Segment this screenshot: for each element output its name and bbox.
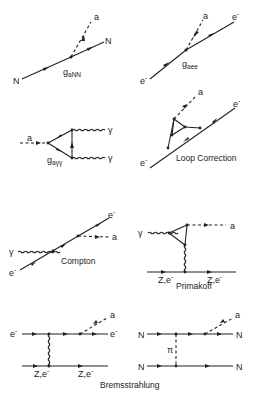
label-axion: a <box>198 87 203 97</box>
vertex <box>173 118 176 121</box>
arrow-icon <box>43 67 49 71</box>
arrow-icon <box>33 364 38 368</box>
label-nucleon-2-in: N <box>138 362 145 372</box>
arrow-icon <box>92 332 97 336</box>
photon-line-upper <box>72 129 105 131</box>
label-photon: γ <box>138 228 143 238</box>
vertex <box>77 235 80 238</box>
arrow-icon <box>188 332 193 336</box>
electron-in-line <box>150 50 186 79</box>
label-pion: π <box>167 345 173 355</box>
diagram-primakoff: γ a Z,e- Z,e- Primakoff <box>138 221 236 291</box>
vertex <box>204 333 207 336</box>
vertex <box>79 333 82 336</box>
label-axion: a <box>112 232 117 242</box>
label-target-in: Z,e- <box>158 273 173 285</box>
label-electron-out: e- <box>232 10 239 22</box>
label-electron-out: e- <box>233 97 240 109</box>
arrow-icon <box>87 47 93 51</box>
photon-line-exchange <box>48 334 50 367</box>
diagram-bremsstrahlung-nucleon: N N N N a π <box>138 310 243 372</box>
coupling-label: gaee <box>182 59 198 70</box>
vertex <box>71 129 74 132</box>
feynman-diagrams-figure: N N a gaNN e- e- a gaee a γ γ gaγγ <box>0 0 255 405</box>
vertex <box>70 56 73 59</box>
arrow-icon <box>93 320 98 324</box>
arrow-icon <box>182 102 188 108</box>
vertex <box>184 126 187 129</box>
label-electron-in: e- <box>140 156 147 168</box>
arrow-icon <box>95 223 101 227</box>
label-axion: a <box>230 221 235 231</box>
loop-line <box>169 225 187 233</box>
label-electron-out: e- <box>108 208 115 220</box>
caption-primakoff: Primakoff <box>176 281 212 291</box>
label-electron-in: e- <box>140 74 147 86</box>
label-electron-in: e- <box>10 327 17 339</box>
loop-line <box>174 119 185 127</box>
label-axion: a <box>203 11 208 21</box>
vertex <box>175 333 178 336</box>
arrow-icon <box>95 235 100 239</box>
arrow-icon <box>207 270 212 274</box>
vertex <box>199 127 202 130</box>
label-axion: a <box>27 133 32 143</box>
photon-line-exchange <box>184 245 186 272</box>
vertex <box>71 157 74 160</box>
coupling-label: gaNN <box>63 67 81 78</box>
arrow-icon <box>157 332 162 336</box>
label-photon-1: γ <box>108 125 113 135</box>
axion-line <box>205 318 233 334</box>
label-electron-out: e- <box>110 327 117 339</box>
vertex <box>47 142 50 145</box>
diagram-axion-photon: a γ γ gaγγ <box>20 125 113 167</box>
loop-line <box>185 127 200 128</box>
vertex <box>168 232 171 235</box>
vertex <box>167 147 170 150</box>
label-axion: a <box>235 310 240 320</box>
caption-loop-correction: Loop Correction <box>176 153 237 163</box>
axion-line <box>71 22 91 57</box>
label-photon-2: γ <box>108 153 113 163</box>
label-target-in: Z,e- <box>34 367 49 379</box>
photon-line-lower <box>72 157 105 159</box>
vertex <box>186 224 189 227</box>
arrow-icon <box>78 364 83 368</box>
diagram-loop-correction: e- e- a Loop Correction <box>140 87 240 168</box>
vertex <box>184 271 187 274</box>
loop-line <box>169 233 185 245</box>
axion-line <box>80 318 107 334</box>
label-axion: a <box>94 12 99 22</box>
vertex <box>171 134 174 137</box>
caption-compton: Compton <box>61 256 96 266</box>
arrow-icon <box>56 148 62 152</box>
axion-line <box>78 236 109 237</box>
arrow-icon <box>36 141 41 145</box>
arrow-icon <box>70 142 74 148</box>
vertex <box>48 333 51 336</box>
photon-line-in <box>148 232 178 234</box>
arrow-icon <box>32 332 37 336</box>
label-nucleon-out: N <box>105 36 112 46</box>
loop-line <box>185 225 187 245</box>
label-nucleon-1-out: N <box>236 330 243 340</box>
vertex <box>185 49 188 52</box>
arrow-icon <box>205 364 210 368</box>
label-nucleon-in: N <box>13 76 20 86</box>
diagram-bremsstrahlung-electron: e- e- a Z,e- Z,e- <box>10 310 117 379</box>
label-photon: γ <box>9 247 14 257</box>
vertex <box>52 250 55 253</box>
diagram-axion-nucleon: N N a gaNN <box>13 12 112 86</box>
label-nucleon-2-out: N <box>236 362 243 372</box>
label-electron-in: e- <box>9 266 16 278</box>
vertex <box>175 365 178 368</box>
diagram-compton: γ e- e- a Compton <box>9 208 117 278</box>
coupling-label: gaγγ <box>47 155 63 167</box>
arrow-icon <box>193 31 199 38</box>
arrow-icon <box>157 364 162 368</box>
vertex <box>184 244 187 247</box>
label-axion: a <box>110 310 115 320</box>
caption-bremsstrahlung: Bremsstrahlung <box>100 380 160 390</box>
label-target-out: Z,e- <box>78 367 93 379</box>
loop-line <box>172 127 185 135</box>
